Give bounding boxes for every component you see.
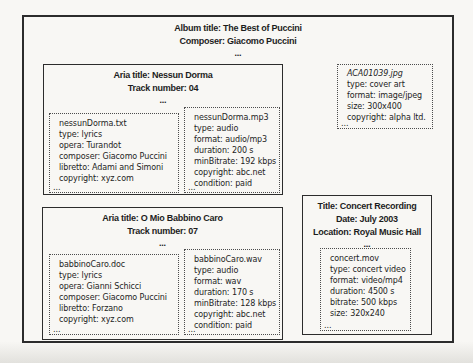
file-property: duration: 4500 s	[330, 286, 408, 297]
track-ellipsis: ...	[43, 238, 282, 248]
file-property: type: audio	[194, 123, 277, 134]
file-ellipsis: ...	[53, 182, 61, 193]
file-name: nessunDorma.mp3	[194, 112, 277, 123]
file-name: babbinoCaro.doc	[59, 259, 176, 270]
file-name: nessunDorma.txt	[59, 118, 176, 129]
file-name: concert.mov	[330, 253, 408, 264]
track-ellipsis: ...	[44, 95, 282, 105]
file-property: type: concert video	[330, 264, 408, 275]
concert-header: Title: Concert Recording Date: July 2003…	[303, 196, 431, 249]
file-property: format: audio/mp3	[194, 134, 277, 145]
concert-title: Title: Concert Recording	[303, 200, 431, 213]
file-property: size: 320x240	[330, 308, 408, 319]
album-metadata-diagram: Album title: The Best of Puccini Compose…	[0, 0, 473, 363]
concert-date: Date: July 2003	[303, 213, 431, 226]
file-property: composer: Giacomo Puccini	[59, 151, 176, 162]
file-property: duration: 200 s	[194, 145, 277, 156]
file-property: copyright: abc.net	[194, 309, 277, 320]
file-property: type: lyrics	[59, 129, 176, 140]
concert-box: Title: Concert Recording Date: July 2003…	[302, 195, 432, 335]
file-box-babbinocaro-doc: babbinoCaro.doc type: lyrics opera: Gian…	[49, 254, 179, 335]
album-ellipsis: ...	[24, 48, 452, 58]
track-title: Aria title: Nessun Dorma	[44, 69, 282, 82]
file-property: format: image/jpeg	[347, 90, 430, 101]
file-property: libretto: Forzano	[59, 303, 176, 314]
file-property: format: wav	[194, 276, 277, 287]
track-header: Aria title: O Mio Babbino Caro Track num…	[43, 208, 282, 248]
file-box-babbinocaro-wav: babbinoCaro.wav type: audio format: wav …	[184, 249, 280, 335]
file-property: type: lyrics	[59, 270, 176, 281]
file-property: libretto: Adami and Simoni	[59, 162, 176, 173]
file-property: minBitrate: 192 kbps	[194, 156, 277, 167]
file-box-concert-mov: concert.mov type: concert video format: …	[320, 248, 411, 331]
file-property: copyright: xyz.com	[59, 173, 176, 184]
album-box: Album title: The Best of Puccini Compose…	[22, 15, 454, 343]
file-ellipsis: ...	[324, 320, 332, 331]
track-number: Track number: 07	[43, 225, 282, 238]
album-header: Album title: The Best of Puccini Compose…	[24, 17, 452, 58]
file-property: copyright: xyz.com	[59, 314, 176, 325]
file-property: bitrate: 500 kbps	[330, 297, 408, 308]
track-box-nessun-dorma: Aria title: Nessun Dorma Track number: 0…	[43, 64, 283, 195]
track-number: Track number: 04	[44, 82, 282, 95]
file-property: copyright: alpha ltd.	[347, 112, 430, 123]
concert-location: Location: Royal Music Hall	[303, 226, 431, 239]
file-property: type: audio	[194, 265, 277, 276]
track-title: Aria title: O Mio Babbino Caro	[43, 212, 282, 225]
file-property: type: cover art	[347, 79, 430, 90]
track-box-o-mio-babbino-caro: Aria title: O Mio Babbino Caro Track num…	[42, 207, 283, 340]
file-property: copyright: abc.net	[194, 167, 277, 178]
file-property: format: video/mp4	[330, 275, 408, 286]
file-property: condition: paid	[194, 178, 277, 189]
file-property: duration: 170 s	[194, 287, 277, 298]
file-box-nessundorma-mp3: nessunDorma.mp3 type: audio format: audi…	[184, 107, 280, 193]
track-header: Aria title: Nessun Dorma Track number: 0…	[44, 65, 282, 105]
file-ellipsis: ...	[188, 182, 196, 193]
file-name: babbinoCaro.wav	[194, 254, 277, 265]
file-box-cover-art: ACA01039.jpg type: cover art format: ima…	[337, 64, 433, 129]
file-ellipsis: ...	[341, 118, 349, 129]
file-ellipsis: ...	[188, 324, 196, 335]
file-ellipsis: ...	[53, 324, 61, 335]
file-property: size: 300x400	[347, 101, 430, 112]
album-composer: Composer: Giacomo Puccini	[24, 35, 452, 48]
album-title: Album title: The Best of Puccini	[24, 22, 452, 35]
file-property: composer: Giacomo Puccini	[59, 292, 176, 303]
file-property: minBitrate: 128 kbps	[194, 298, 277, 309]
file-property: condition: paid	[194, 320, 277, 331]
file-property: opera: Gianni Schicci	[59, 281, 176, 292]
file-box-nessundorma-txt: nessunDorma.txt type: lyrics opera: Tura…	[49, 113, 179, 193]
file-property: opera: Turandot	[59, 140, 176, 151]
file-name: ACA01039.jpg	[347, 68, 430, 79]
